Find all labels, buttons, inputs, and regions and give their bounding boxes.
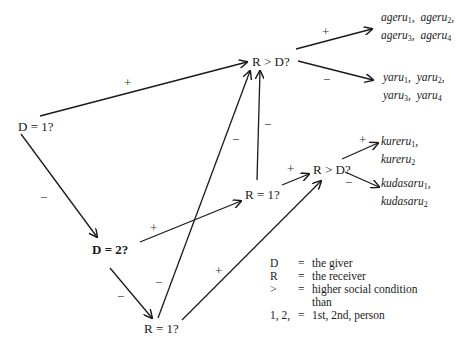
sign-d2-minus: − <box>117 290 124 303</box>
legend-value: higher social condition <box>312 283 417 296</box>
edge-r1mid-to-rgtd-top <box>257 71 260 180</box>
sign-d2-plus: + <box>150 221 157 234</box>
legend-row: than <box>270 296 417 309</box>
legend-value: 1st, 2nd, person <box>312 309 385 322</box>
edge-r1bottom-to-rgtd-top <box>158 71 250 318</box>
node-r-greater-d-top: R > D? <box>252 55 290 68</box>
legend-eq: = <box>298 257 312 270</box>
sign-rgtd-right-minus: − <box>345 176 352 189</box>
edge-rgtd-top-to-ageru <box>296 29 372 49</box>
legend-row: > = higher social condition <box>270 283 417 296</box>
legend: D = the giver R = the receiver > = highe… <box>270 257 417 322</box>
sign-r1bottom-plus-right: + <box>215 264 222 277</box>
legend-eq <box>298 296 312 309</box>
leaf-kudasaru: kudasaru1, kudasaru2 <box>381 176 431 212</box>
leaf-ageru: ageru1, ageru2, ageru3, ageru4 <box>381 10 454 46</box>
legend-key: 1, 2, <box>270 309 298 322</box>
legend-value: than <box>312 296 332 309</box>
node-r-equals-1-bottom: R = 1? <box>144 322 179 335</box>
legend-eq: = <box>298 309 312 322</box>
legend-row: R = the receiver <box>270 270 417 283</box>
sign-d1-minus: − <box>40 191 47 204</box>
sign-r1mid-minus: − <box>232 133 239 146</box>
decision-tree-diagram: D = 1? R > D? D = 2? R = 1? R > D? R = 1… <box>0 0 467 350</box>
sign-r1mid-plus-right: + <box>287 162 294 175</box>
legend-row: 1, 2, = 1st, 2nd, person <box>270 309 417 322</box>
legend-value: the giver <box>312 257 353 270</box>
edge-d1-to-rgtd-top <box>40 62 247 116</box>
legend-eq: = <box>298 283 312 296</box>
legend-eq: = <box>298 270 312 283</box>
sign-rgtd-right-plus: + <box>359 133 366 146</box>
leaf-kureru: kureru1, kureru2 <box>381 134 418 170</box>
leaf-yaru: yaru1, yaru2, yaru3, yaru4 <box>383 70 445 106</box>
sign-r1bottom-minus-top-2: − <box>264 118 271 131</box>
node-d-equals-2: D = 2? <box>92 243 128 256</box>
legend-row: D = the giver <box>270 257 417 270</box>
edge-rgtd-top-to-yaru <box>298 61 373 80</box>
legend-key: D <box>270 257 298 270</box>
edge-d1-to-d2 <box>21 134 97 237</box>
sign-r1bottom-minus-top: − <box>155 276 162 289</box>
sign-rgtd-top-plus: + <box>322 25 329 38</box>
legend-key: R <box>270 270 298 283</box>
node-d-equals-1: D = 1? <box>18 120 54 133</box>
legend-key: > <box>270 283 298 296</box>
legend-key <box>270 296 298 309</box>
sign-d1-plus: + <box>124 76 131 89</box>
sign-rgtd-top-minus: − <box>323 73 330 86</box>
legend-value: the receiver <box>312 270 366 283</box>
node-r-equals-1-mid: R = 1? <box>245 188 280 201</box>
